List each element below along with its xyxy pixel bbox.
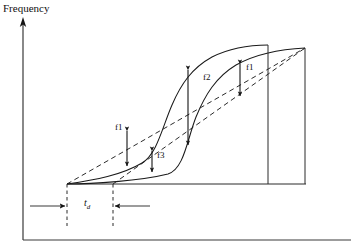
annotation-label-f3: f3: [157, 150, 165, 160]
y-axis: [20, 17, 26, 240]
diagram-svg: [0, 0, 351, 249]
annotation-label-f1-left: f1: [115, 122, 123, 132]
annotation-label-f1-right: f1: [246, 62, 254, 72]
annotation-label-f2: f2: [203, 72, 211, 82]
s-curve-upper: [67, 45, 268, 184]
dimension-label-td: td: [84, 197, 90, 211]
y-axis-title: Frequency: [3, 2, 49, 14]
figure-canvas: Frequency f1 f3 f2 f1 td: [0, 0, 351, 249]
dimension-label-td-subscript: d: [87, 203, 91, 211]
dashed-reference-upper-line: [67, 48, 305, 184]
